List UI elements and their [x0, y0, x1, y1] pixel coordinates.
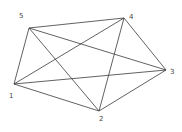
node-label-2: 2	[99, 115, 103, 123]
edge-4-2	[99, 18, 124, 111]
edge-1-2	[14, 84, 99, 111]
node-label-1: 1	[9, 92, 13, 100]
edge-5-2	[29, 28, 99, 111]
edge-5-1	[14, 28, 29, 84]
edge-3-1	[14, 70, 166, 84]
node-label-3: 3	[170, 68, 174, 76]
node-label-4: 4	[129, 13, 134, 21]
graph-canvas: 12345	[0, 0, 182, 132]
edges-group	[14, 18, 166, 111]
edge-3-2	[99, 70, 166, 111]
edge-4-3	[124, 18, 166, 70]
node-label-5: 5	[19, 12, 23, 20]
labels-group: 12345	[9, 12, 174, 123]
